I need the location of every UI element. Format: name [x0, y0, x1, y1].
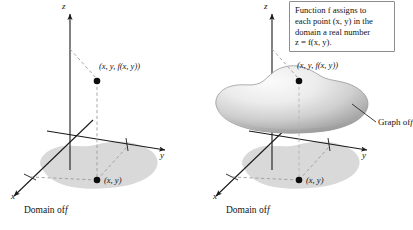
graph-of-f-label: Graph off [378, 118, 413, 127]
point-on-graph-marker [296, 78, 303, 85]
domain-caption-text: Domain of [24, 205, 65, 215]
domain-caption: Domain off [226, 206, 270, 216]
z-axis-label: z [264, 2, 268, 11]
dash-z-to-point [70, 49, 97, 79]
x-axis-label: x [11, 192, 15, 201]
note-line-3: domain a real number [295, 27, 390, 38]
graph-of-f-text: Graph of [378, 117, 410, 127]
note-line-2: each point (x, y) in the [295, 16, 390, 27]
domain-caption-text: Domain of [226, 205, 267, 215]
y-axis-label: y [362, 151, 366, 160]
point-on-graph-marker [94, 78, 101, 85]
point-in-domain-label: (x, y) [104, 176, 121, 185]
point-on-graph-label: (x, y, f(x, y)) [297, 61, 338, 70]
diagram-panel-left: z y x (x, y, f(x, y)) (x, y) Domain off [0, 0, 202, 230]
z-axis-label: z [62, 2, 66, 11]
note-line-1: Function f assigns to [295, 5, 390, 16]
point-in-domain-label: (x, y) [306, 176, 323, 185]
y-axis-label: y [160, 151, 164, 160]
graph-of-f-function: f [410, 117, 413, 127]
explanatory-note-box: Function f assigns to each point (x, y) … [289, 1, 395, 52]
x-axis-label: x [213, 192, 217, 201]
left-diagram-svg [0, 0, 202, 230]
point-in-domain-marker [94, 177, 101, 184]
domain-caption: Domain off [24, 206, 68, 216]
point-in-domain-marker [296, 177, 303, 184]
note-line-4: z = f(x, y). [295, 37, 390, 48]
domain-caption-function: f [65, 205, 68, 215]
point-on-graph-label: (x, y, f(x, y)) [99, 62, 140, 71]
domain-caption-function: f [267, 205, 270, 215]
